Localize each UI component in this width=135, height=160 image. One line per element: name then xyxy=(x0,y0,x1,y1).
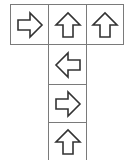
up-arrow-icon xyxy=(53,10,83,40)
right-arrow-icon xyxy=(15,10,45,40)
up-arrow-icon xyxy=(90,10,120,40)
grid-cell xyxy=(86,4,124,45)
grid-cell xyxy=(48,122,87,160)
up-arrow-icon xyxy=(53,127,83,157)
grid-cell xyxy=(48,44,87,85)
grid-cell xyxy=(48,4,87,45)
grid-cell xyxy=(48,84,87,123)
left-arrow-icon xyxy=(53,50,83,80)
grid-cell xyxy=(10,4,49,45)
right-arrow-icon xyxy=(53,89,83,119)
